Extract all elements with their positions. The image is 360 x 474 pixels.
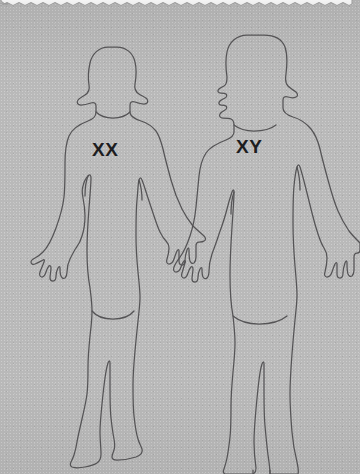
- male-figure-outline: [174, 35, 360, 474]
- male-chromosome-label: XY: [236, 136, 262, 158]
- figures-artwork: [0, 0, 360, 474]
- illustration-canvas: XX XY: [0, 0, 360, 474]
- female-chromosome-label: XX: [92, 139, 118, 161]
